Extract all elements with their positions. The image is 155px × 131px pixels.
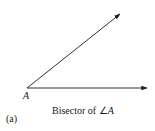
vertex-label: A — [23, 91, 29, 101]
caption: Bisector of ∠A — [52, 106, 114, 116]
angle-symbol: ∠ — [99, 105, 108, 116]
caption-angle-var: A — [108, 105, 114, 116]
caption-prefix: Bisector of — [52, 105, 99, 116]
upper-ray-arrow — [27, 14, 120, 88]
panel-label: (a) — [6, 114, 17, 124]
